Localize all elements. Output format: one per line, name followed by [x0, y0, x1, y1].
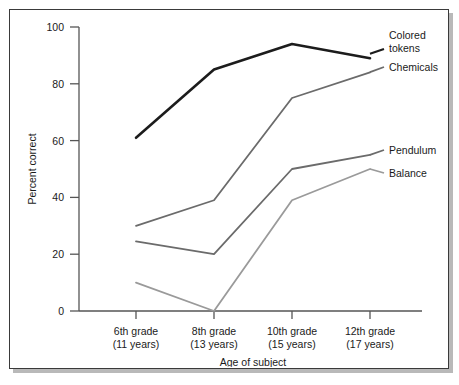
y-tick-label-80: 80	[52, 78, 64, 90]
y-axis-ticks	[70, 27, 79, 311]
x-label-8th-grade-top: 8th grade	[192, 325, 237, 337]
x-label-12th-grade-top: 12th grade	[345, 325, 395, 337]
x-category-labels: 6th grade (11 years) 8th grade (13 years…	[113, 325, 396, 350]
y-axis-title: Percent correct	[26, 133, 38, 204]
x-label-12th-grade-bottom: (17 years)	[346, 338, 393, 350]
x-label-10th-grade-bottom: (15 years)	[268, 338, 315, 350]
leader-line-balance	[370, 169, 384, 173]
leader-line-pendulum	[370, 150, 384, 155]
leader-line-chemicals	[370, 67, 384, 72]
leader-line-colored-tokens	[370, 49, 384, 54]
series-labels: Colored tokens Chemicals Pendulum Balanc…	[389, 29, 438, 179]
x-axis-ticks	[136, 311, 370, 319]
series-line-colored-tokens	[136, 44, 370, 138]
series-label-chemicals: Chemicals	[389, 61, 438, 73]
x-label-6th-grade-top: 6th grade	[114, 325, 159, 337]
series-label-pendulum: Pendulum	[389, 144, 437, 156]
y-tick-label-20: 20	[52, 248, 64, 260]
series-label-colored-tokens-line2: tokens	[389, 42, 420, 54]
figure-plate: 100 80 60 40 20 0 6th grade (11 years) 8…	[9, 9, 449, 369]
series-line-balance	[136, 169, 370, 311]
series-line-chemicals	[136, 72, 370, 225]
y-tick-label-0: 0	[58, 305, 64, 317]
x-axis-title: Age of subject	[220, 356, 287, 367]
line-chart: 100 80 60 40 20 0 6th grade (11 years) 8…	[10, 10, 447, 367]
y-tick-label-100: 100	[46, 21, 64, 33]
series-leader-lines	[370, 49, 384, 173]
x-label-10th-grade-top: 10th grade	[267, 325, 317, 337]
series-lines	[136, 44, 370, 311]
figure-container: 100 80 60 40 20 0 6th grade (11 years) 8…	[0, 0, 459, 385]
series-label-balance: Balance	[389, 167, 427, 179]
x-label-6th-grade-bottom: (11 years)	[113, 338, 160, 350]
x-label-8th-grade-bottom: (13 years)	[190, 338, 237, 350]
y-tick-label-40: 40	[52, 191, 64, 203]
series-label-colored-tokens-line1: Colored	[389, 29, 426, 41]
y-tick-label-60: 60	[52, 135, 64, 147]
series-line-pendulum	[136, 155, 370, 254]
